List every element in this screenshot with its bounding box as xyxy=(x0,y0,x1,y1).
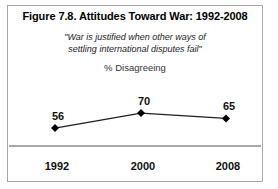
x-axis-tick-label: 2008 xyxy=(216,160,240,172)
diamond-marker xyxy=(222,114,230,122)
diamond-marker xyxy=(51,124,59,132)
value-label: 65 xyxy=(223,100,235,112)
diamond-marker xyxy=(137,109,145,117)
figure-canvas: Figure 7.8. Attitudes Toward War: 1992-2… xyxy=(0,0,278,189)
value-label: 56 xyxy=(52,110,64,122)
x-axis-tick-label: 2000 xyxy=(131,160,155,172)
value-label: 70 xyxy=(138,95,150,107)
chart-frame: Figure 7.8. Attitudes Toward War: 1992-2… xyxy=(7,5,263,182)
line-chart: 561992702000652008 xyxy=(8,6,262,181)
x-axis-tick-label: 1992 xyxy=(45,160,69,172)
